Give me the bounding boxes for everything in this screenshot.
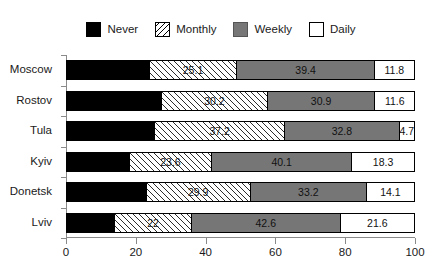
x-axis-tick-label: 60	[269, 247, 282, 259]
y-axis-tick	[61, 86, 66, 87]
legend-label: Weekly	[254, 24, 292, 36]
bar-value-label: 21.6	[366, 218, 388, 229]
bar-value-label: 23.6	[159, 157, 181, 168]
x-axis-tick	[136, 238, 137, 244]
x-axis-tick	[275, 238, 276, 244]
bar-value-label: 18.3	[372, 157, 394, 168]
bar-segment-weekly[interactable]: 32.8	[284, 121, 398, 141]
legend-item-never[interactable]: Never	[86, 22, 138, 37]
bar-segment-daily[interactable]: 11.6	[374, 91, 414, 111]
legend-item-weekly[interactable]: Weekly	[233, 22, 292, 37]
bar-row[interactable]: 37.232.84.7	[66, 121, 415, 141]
bar-value-label: 33.2	[297, 187, 319, 198]
bar-value-label: 4.7	[399, 126, 415, 137]
bar-segment-weekly[interactable]: 30.9	[267, 91, 375, 111]
bar-value-label: 37.2	[208, 126, 230, 137]
bar-value-label: 40.1	[270, 157, 292, 168]
x-axis-tick-label: 100	[405, 247, 424, 259]
x-axis-tick-label: 0	[63, 247, 69, 259]
y-axis-label-moscow: Moscow	[10, 65, 52, 77]
bar-segment-weekly[interactable]: 33.2	[250, 182, 366, 202]
bar-value-label: 11.6	[384, 96, 406, 107]
x-axis-tick	[66, 238, 67, 244]
monthly-swatch	[155, 22, 170, 37]
bar-value-label: 42.6	[255, 218, 277, 229]
axis-frame	[66, 55, 415, 238]
weekly-swatch	[233, 22, 248, 37]
bar-value-label: 30.9	[310, 96, 332, 107]
bar-segment-daily[interactable]: 21.6	[340, 213, 415, 233]
y-axis-tick	[61, 55, 66, 56]
y-axis-label-donetsk: Donetsk	[10, 187, 52, 199]
y-axis-tick	[61, 147, 66, 148]
bar-segment-never[interactable]	[66, 60, 149, 80]
bar-segment-weekly[interactable]: 39.4	[236, 60, 374, 80]
bar-value-label: 22	[146, 218, 160, 229]
daily-swatch	[309, 22, 324, 37]
bar-segment-never[interactable]	[66, 91, 161, 111]
bar-segment-monthly[interactable]: 25.1	[149, 60, 237, 80]
bar-value-label: 14.1	[379, 187, 401, 198]
legend-label: Never	[107, 24, 138, 36]
y-axis-label-kyiv: Kyiv	[30, 156, 52, 168]
bar-segment-monthly[interactable]: 30.2	[161, 91, 266, 111]
bar-segment-monthly[interactable]: 37.2	[154, 121, 284, 141]
bar-segment-never[interactable]	[66, 152, 129, 172]
y-axis-tick	[61, 116, 66, 117]
legend-item-monthly[interactable]: Monthly	[155, 22, 216, 37]
y-axis-label-tula: Tula	[30, 126, 52, 138]
x-axis-tick-label: 20	[129, 247, 142, 259]
bar-segment-never[interactable]	[66, 121, 154, 141]
x-axis-tick	[345, 238, 346, 244]
chart-legend: NeverMonthlyWeeklyDaily	[0, 22, 442, 37]
bar-row[interactable]: 23.640.118.3	[66, 152, 415, 172]
bar-segment-monthly[interactable]: 29.9	[146, 182, 250, 202]
bar-segment-weekly[interactable]: 42.6	[191, 213, 340, 233]
x-axis-tick-label: 80	[339, 247, 352, 259]
x-axis-tick	[206, 238, 207, 244]
bar-row[interactable]: 25.139.411.8	[66, 60, 415, 80]
legend-item-daily[interactable]: Daily	[309, 22, 356, 37]
bar-segment-never[interactable]	[66, 213, 114, 233]
y-axis-label-lviv: Lviv	[32, 217, 52, 229]
x-axis-tick	[415, 238, 416, 244]
bar-segment-monthly[interactable]: 22	[114, 213, 191, 233]
legend-label: Monthly	[176, 24, 216, 36]
bar-value-label: 29.9	[187, 187, 209, 198]
bar-segment-daily[interactable]: 14.1	[366, 182, 415, 202]
bar-segment-daily[interactable]: 11.8	[374, 60, 415, 80]
bar-row[interactable]: 29.933.214.1	[66, 182, 415, 202]
x-axis-tick-label: 40	[199, 247, 212, 259]
bar-value-label: 30.2	[203, 96, 225, 107]
bar-segment-weekly[interactable]: 40.1	[211, 152, 351, 172]
y-axis-category-labels: MoscowRostovTulaKyivDonetskLviv	[0, 55, 60, 238]
bar-value-label: 11.8	[384, 65, 406, 76]
y-axis-tick	[61, 208, 66, 209]
bar-value-label: 25.1	[182, 65, 204, 76]
chart-plot-area: 25.139.411.830.230.911.637.232.84.723.64…	[66, 55, 415, 238]
y-axis-tick	[61, 177, 66, 178]
bar-value-label: 32.8	[331, 126, 353, 137]
bar-segment-monthly[interactable]: 23.6	[129, 152, 211, 172]
bar-value-label: 39.4	[294, 65, 316, 76]
bar-segment-daily[interactable]: 4.7	[399, 121, 415, 141]
legend-label: Daily	[330, 24, 356, 36]
y-axis-label-rostov: Rostov	[16, 95, 52, 107]
never-swatch	[86, 22, 101, 37]
bar-row[interactable]: 30.230.911.6	[66, 91, 415, 111]
bar-segment-never[interactable]	[66, 182, 146, 202]
bar-row[interactable]: 2242.621.6	[66, 213, 415, 233]
bar-segment-daily[interactable]: 18.3	[351, 152, 415, 172]
